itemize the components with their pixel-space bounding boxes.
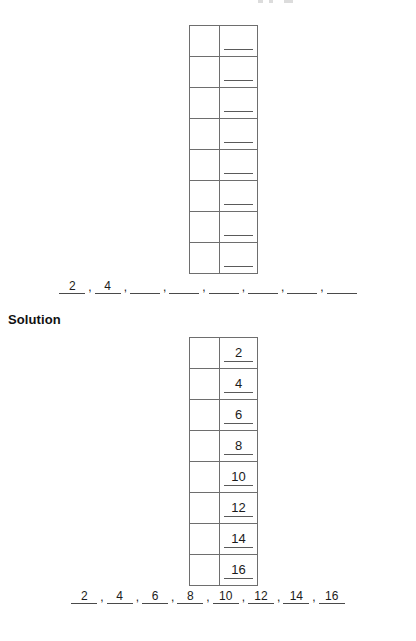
solution-left-cell[interactable] — [190, 493, 220, 524]
sequence-solution-separator: , — [274, 590, 283, 604]
solution-answer-rule — [224, 454, 253, 455]
solution-left-cell-content — [190, 431, 219, 461]
sequence-exercise-term[interactable]: 4 — [95, 279, 121, 294]
exercise-answer-rule — [224, 80, 253, 81]
exercise-table-body — [190, 26, 258, 274]
exercise-right-cell-content — [220, 26, 257, 56]
solution-answer-rule — [224, 578, 253, 579]
exercise-left-cell[interactable] — [190, 57, 220, 88]
exercise-answer-rule — [224, 49, 253, 50]
exercise-left-cell[interactable] — [190, 119, 220, 150]
sequence-solution-term[interactable]: 10 — [213, 589, 239, 604]
sequence-solution-term[interactable]: 2 — [71, 589, 97, 604]
sequence-exercise: 2,4,,,,,, — [0, 279, 416, 294]
exercise-right-cell[interactable] — [220, 26, 258, 57]
solution-right-cell-content: 16 — [220, 555, 257, 585]
exercise-left-cell[interactable] — [190, 212, 220, 243]
exercise-left-cell[interactable] — [190, 88, 220, 119]
exercise-left-cell-content — [190, 119, 219, 149]
exercise-left-cell-content — [190, 26, 219, 56]
sequence-exercise-separator: , — [121, 280, 130, 294]
sequence-exercise-term[interactable] — [248, 279, 278, 294]
solution-row: 12 — [190, 493, 258, 524]
exercise-right-cell[interactable] — [220, 212, 258, 243]
sequence-exercise-term[interactable] — [130, 279, 160, 294]
solution-right-cell[interactable]: 12 — [220, 493, 258, 524]
exercise-answer-rule — [224, 266, 253, 267]
exercise-right-cell[interactable] — [220, 181, 258, 212]
exercise-row — [190, 26, 258, 57]
solution-left-cell[interactable] — [190, 338, 220, 369]
solution-table-body: 246810121416 — [190, 338, 258, 586]
solution-left-cell[interactable] — [190, 555, 220, 586]
exercise-left-cell[interactable] — [190, 26, 220, 57]
solution-row: 4 — [190, 369, 258, 400]
solution-answer-value: 8 — [220, 439, 257, 452]
solution-left-cell-content — [190, 400, 219, 430]
exercise-right-cell-content — [220, 212, 257, 242]
solution-answer-value: 4 — [220, 377, 257, 390]
solution-right-cell[interactable]: 4 — [220, 369, 258, 400]
exercise-row — [190, 119, 258, 150]
exercise-left-cell[interactable] — [190, 181, 220, 212]
solution-answer-rule — [224, 516, 253, 517]
sequence-exercise-separator: , — [317, 280, 326, 294]
solution-right-cell[interactable]: 2 — [220, 338, 258, 369]
sequence-solution-term[interactable]: 14 — [283, 589, 309, 604]
exercise-left-cell[interactable] — [190, 243, 220, 274]
sequence-exercise-term[interactable]: 2 — [59, 279, 85, 294]
exercise-left-cell[interactable] — [190, 150, 220, 181]
solution-row: 2 — [190, 338, 258, 369]
exercise-answer-rule — [224, 173, 253, 174]
exercise-left-cell-content — [190, 88, 219, 118]
exercise-right-cell-content — [220, 150, 257, 180]
solution-right-cell[interactable]: 6 — [220, 400, 258, 431]
solution-right-cell[interactable]: 10 — [220, 462, 258, 493]
solution-right-cell[interactable]: 8 — [220, 431, 258, 462]
sequence-exercise-term[interactable] — [209, 279, 239, 294]
sequence-exercise-term[interactable] — [327, 279, 357, 294]
exercise-left-cell-content — [190, 57, 219, 87]
sequence-solution-term[interactable]: 6 — [142, 589, 168, 604]
solution-left-cell[interactable] — [190, 524, 220, 555]
solution-left-cell-content — [190, 555, 219, 585]
sequence-exercise-term[interactable] — [169, 279, 199, 294]
sequence-exercise-separator: , — [239, 280, 248, 294]
solution-left-cell-content — [190, 369, 219, 399]
solution-left-cell-content — [190, 462, 219, 492]
sequence-solution-term[interactable]: 16 — [319, 589, 345, 604]
sequence-solution: 2,4,6,8,10,12,14,16 — [0, 589, 416, 604]
solution-left-cell-content — [190, 524, 219, 554]
solution-heading: Solution — [8, 312, 61, 327]
exercise-right-cell[interactable] — [220, 57, 258, 88]
sequence-exercise-separator: , — [199, 280, 208, 294]
solution-right-cell[interactable]: 14 — [220, 524, 258, 555]
solution-right-cell[interactable]: 16 — [220, 555, 258, 586]
exercise-right-cell[interactable] — [220, 119, 258, 150]
sequence-solution-term[interactable]: 4 — [107, 589, 133, 604]
exercise-right-cell[interactable] — [220, 88, 258, 119]
exercise-left-cell-content — [190, 243, 219, 273]
solution-answer-rule — [224, 392, 253, 393]
exercise-right-cell[interactable] — [220, 150, 258, 181]
solution-answer-value: 10 — [220, 470, 257, 483]
solution-row: 10 — [190, 462, 258, 493]
sequence-solution-separator: , — [309, 590, 318, 604]
sequence-exercise-separator: , — [85, 280, 94, 294]
solution-count-table: 246810121416 — [189, 337, 258, 586]
sequence-solution-separator: , — [168, 590, 177, 604]
solution-row: 8 — [190, 431, 258, 462]
solution-left-cell[interactable] — [190, 462, 220, 493]
exercise-row — [190, 88, 258, 119]
sequence-solution-term[interactable]: 12 — [248, 589, 274, 604]
sequence-solution-term[interactable]: 8 — [177, 589, 203, 604]
solution-answer-value: 2 — [220, 346, 257, 359]
exercise-right-cell-content — [220, 88, 257, 118]
solution-answer-value: 14 — [220, 532, 257, 545]
exercise-right-cell[interactable] — [220, 243, 258, 274]
solution-left-cell[interactable] — [190, 369, 220, 400]
sequence-exercise-term[interactable] — [287, 279, 317, 294]
solution-left-cell[interactable] — [190, 431, 220, 462]
solution-left-cell[interactable] — [190, 400, 220, 431]
solution-right-cell-content: 14 — [220, 524, 257, 554]
